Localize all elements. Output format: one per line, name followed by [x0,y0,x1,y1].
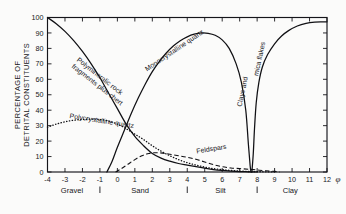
x-tick-label: 4 [185,175,189,184]
curve-label-mica-flakes: mica flakes [252,41,266,77]
curve-label-clays-and-mica-flakes: Clays and [236,76,250,108]
x-tick-label: 0 [115,175,119,184]
curve-label-polymineralic-rock-fragments-plus-chert: Polymineralic rockfragments plus chert [70,56,129,107]
x-tick-label: 5 [203,175,207,184]
y-tick-label: 20 [36,137,44,146]
curve-label-text: Feldspars [196,143,228,156]
size-class-label-silt: Silt [215,186,226,195]
size-class-label-clay: Clay [283,186,298,195]
y-tick-label: 60 [36,75,44,84]
size-class-label-gravel: Gravel [61,186,84,195]
y-axis-label-line2: DETRITAL CONSTITUENTS [22,43,31,147]
x-tick-label: 8 [255,175,259,184]
x-tick-label: -4 [44,175,50,184]
y-tick-label: 50 [36,90,44,99]
y-tick-label: 70 [36,59,44,68]
detrital-constituents-chart: -4-3-2-10123456789101112φ010203040506070… [0,0,346,214]
x-tick-label: 2 [150,175,154,184]
curve-label-feldspars: Feldspars [196,143,228,156]
x-tick-label: -2 [79,175,85,184]
curve-label-text: Clays and [236,76,250,108]
curve-monocrystalline-quartz [107,33,251,172]
curve-label-text: Monocrystalline quartz [144,28,206,73]
x-tick-label: 7 [238,175,242,184]
x-tick-label: 3 [168,175,172,184]
curve-label-monocrystalline-quartz: Monocrystalline quartz [144,28,206,73]
x-tick-label: 10 [288,175,296,184]
curve-feldspars [116,153,280,172]
y-axis-label-line1: PERCENTAGE OF [13,60,22,129]
y-tick-label: 40 [36,106,44,115]
y-tick-label: 30 [36,121,44,130]
y-tick-label: 100 [32,13,44,22]
x-tick-label: 11 [306,175,313,184]
size-class-label-sand: Sand [131,186,149,195]
x-tick-label: -3 [62,175,68,184]
curve-label-text: mica flakes [252,41,266,77]
y-tick-label: 80 [36,44,44,53]
curve-polycrystalline-quartz [48,119,275,172]
curve-label-polycrystalline-quartz: Polycrystalline quartz [69,112,135,130]
x-tick-label: 12 [323,175,331,184]
x-axis-label: φ [336,174,341,184]
y-tick-label: 90 [36,29,44,38]
x-tick-label: 1 [133,175,137,184]
y-tick-label: 0 [40,168,44,177]
curve-label-text: Polycrystalline quartz [69,112,135,130]
x-tick-label: -1 [97,175,103,184]
x-tick-label: 6 [220,175,224,184]
chart-figure: -4-3-2-10123456789101112φ010203040506070… [0,0,346,214]
y-tick-label: 10 [36,152,44,161]
x-tick-label: 9 [273,175,277,184]
